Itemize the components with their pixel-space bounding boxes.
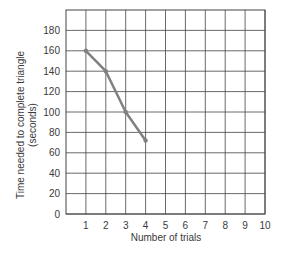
y-tick-label: 80	[49, 127, 61, 138]
data-point	[124, 110, 128, 114]
y-tick-label: 60	[49, 147, 61, 158]
x-tick-label: 1	[83, 220, 89, 231]
x-tick-label: 7	[203, 220, 209, 231]
series-line	[86, 51, 146, 141]
x-tick-label: 2	[103, 220, 109, 231]
y-axis-label: Time needed to complete triangle	[15, 51, 26, 199]
line-chart: 020406080100120140160180 12345678910 Num…	[0, 0, 286, 253]
y-tick-label: 160	[43, 45, 60, 56]
x-tick-label: 6	[183, 220, 189, 231]
y-axis-label-group: Time needed to complete triangle (second…	[15, 51, 38, 199]
x-tick-label: 8	[222, 220, 228, 231]
x-tick-label: 10	[259, 220, 271, 231]
y-axis-label-units: (seconds)	[27, 103, 38, 147]
x-tick-label: 3	[123, 220, 129, 231]
y-tick-label: 0	[54, 209, 60, 220]
y-tick-label: 20	[49, 188, 61, 199]
y-axis-ticks: 020406080100120140160180	[43, 25, 60, 220]
data-point	[104, 69, 108, 73]
data-point	[143, 138, 147, 142]
x-tick-label: 9	[242, 220, 248, 231]
x-axis-label: Number of trials	[131, 232, 202, 243]
y-tick-label: 40	[49, 168, 61, 179]
data-series	[84, 49, 148, 143]
y-tick-label: 100	[43, 107, 60, 118]
y-tick-label: 120	[43, 86, 60, 97]
x-tick-label: 5	[163, 220, 169, 231]
y-tick-label: 140	[43, 66, 60, 77]
data-point	[84, 49, 88, 53]
x-tick-label: 4	[143, 220, 149, 231]
y-tick-label: 180	[43, 25, 60, 36]
chart-grid	[66, 10, 265, 214]
x-axis-ticks: 12345678910	[83, 220, 271, 231]
